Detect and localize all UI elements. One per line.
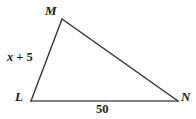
side-label-lm-constant: 5 xyxy=(26,50,32,64)
vertex-label-l: L xyxy=(15,90,23,103)
side-label-lm: x+5 xyxy=(7,51,33,64)
segment-mn xyxy=(62,19,178,101)
side-label-lm-operator: + xyxy=(13,50,26,64)
vertex-label-m: M xyxy=(45,4,57,17)
vertex-label-n: N xyxy=(181,90,190,103)
side-label-ln: 50 xyxy=(96,103,109,116)
segment-lm xyxy=(31,19,62,101)
geometry-figure-triangle-lmn: M L N x+5 50 xyxy=(0,0,196,119)
